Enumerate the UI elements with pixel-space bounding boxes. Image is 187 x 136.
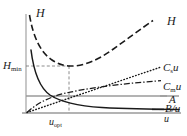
y-axis-label: H — [36, 7, 45, 19]
curve-label-cm-u: Cmu — [163, 81, 181, 92]
h-min-tick-label: Hmin — [3, 60, 22, 71]
u-opt-tick-label: uopt — [49, 117, 62, 127]
cm-subscript: m — [170, 86, 175, 93]
h-min-main: H — [3, 59, 11, 71]
curve-label-cs-u: Csu — [163, 62, 179, 73]
curve-label-b-over-u: B/u — [165, 103, 180, 114]
curve-b-over-u — [31, 50, 179, 109]
x-axis-label: u — [164, 114, 169, 124]
u-opt-subscript: opt — [54, 121, 62, 128]
h-min-subscript: min — [11, 65, 22, 72]
cm-tail: u — [176, 80, 182, 92]
cs-tail: u — [173, 61, 179, 73]
cs-subscript: s — [170, 67, 173, 74]
curve-h-total — [30, 15, 154, 66]
curve-cs-u — [27, 67, 161, 113]
plot-canvas — [0, 0, 187, 136]
axis-group — [22, 14, 181, 113]
van-deemter-figure: H Hmin uopt u H Csu Cmu A B/u — [0, 0, 187, 136]
curve-label-h: H — [167, 15, 176, 27]
